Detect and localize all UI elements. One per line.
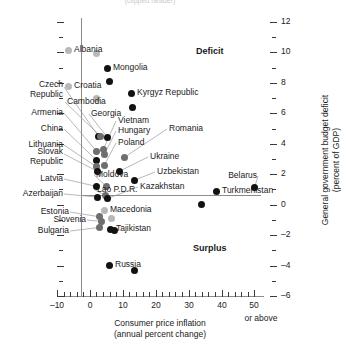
y-tick-major-right — [270, 22, 277, 23]
x-tick-minor — [143, 292, 144, 297]
x-tick-minor — [202, 292, 203, 297]
y-tick-major-right — [270, 266, 277, 267]
point-label: Slovenia — [26, 215, 86, 225]
x-axis-or-above-note: or above — [213, 313, 309, 323]
x-tick-minor — [248, 292, 249, 297]
y-tick-minor-right — [272, 220, 276, 221]
data-point — [65, 83, 72, 90]
x-tick-minor — [136, 292, 137, 297]
point-label: Belarus — [197, 171, 257, 181]
y-tick-major-left — [57, 22, 64, 23]
point-label: CzechRepublic — [3, 80, 63, 99]
data-point — [108, 215, 115, 222]
x-axis-title-line2: (annual percent change) — [45, 329, 275, 340]
y-tick-minor-right — [272, 129, 276, 130]
x-tick-major — [189, 290, 190, 297]
point-label: Uzbekistan — [157, 167, 199, 177]
data-point — [121, 154, 128, 161]
x-tick-minor — [110, 292, 111, 297]
y-axis-title-line1: General government budget deficit — [320, 95, 330, 225]
point-label: Turkmenistan — [222, 186, 273, 196]
point-label: Lao P.D.R. — [97, 185, 137, 195]
label-leader-line — [64, 154, 97, 171]
point-label: Kazakhstan — [140, 182, 184, 192]
x-tick-minor — [96, 292, 97, 297]
point-label: Georgia — [91, 109, 121, 119]
point-label: Albania — [74, 45, 102, 55]
label-leader-line — [64, 194, 97, 197]
x-tick-minor — [83, 292, 84, 297]
y-axis-title-line2: (percent of GDP) — [331, 128, 341, 192]
data-point — [94, 194, 101, 201]
y-tick-minor-left — [59, 68, 63, 69]
data-point — [104, 65, 111, 72]
point-label: China — [3, 124, 63, 134]
x-tick-minor — [235, 292, 236, 297]
x-tick-minor — [182, 292, 183, 297]
data-point — [131, 177, 138, 184]
data-point — [101, 207, 108, 214]
x-tick-major — [90, 290, 91, 297]
point-label: Armenia — [3, 108, 63, 118]
x-tick-major — [57, 290, 58, 297]
x-tick-minor — [241, 292, 242, 297]
point-label: Cambodia — [67, 97, 106, 107]
data-point — [106, 262, 113, 269]
y-tick-label: 2 — [281, 169, 286, 178]
y-tick-major-right — [270, 52, 277, 53]
y-axis-title-sub: (percent of GDP) — [331, 35, 341, 285]
chart-container: (clipped header) –6–4–2024681012–1001020… — [0, 0, 341, 354]
point-label: Tajikistan — [116, 224, 151, 234]
x-tick-minor — [149, 292, 150, 297]
x-tick-minor — [64, 292, 65, 297]
y-tick-major-right — [270, 174, 277, 175]
y-tick-label: –6 — [281, 291, 290, 300]
y-tick-minor-right — [272, 37, 276, 38]
data-point — [107, 226, 114, 233]
data-point — [96, 224, 103, 231]
point-label: Latvia — [3, 174, 63, 184]
label-leader-line — [64, 113, 97, 151]
y-tick-minor-right — [272, 68, 276, 69]
x-tick-minor — [208, 292, 209, 297]
x-tick-major — [222, 290, 223, 297]
point-label: Croatia — [74, 81, 101, 91]
x-tick-minor — [103, 292, 104, 297]
y-tick-major-right — [270, 235, 277, 236]
x-tick-label: 50 — [234, 301, 274, 310]
label-leader-line — [70, 228, 99, 232]
surplus-annotation: Surplus — [193, 243, 227, 253]
data-point — [101, 151, 108, 158]
data-point — [101, 162, 108, 169]
x-tick-minor — [129, 292, 130, 297]
y-tick-major-right — [270, 296, 277, 297]
point-label: Bulgaria — [9, 226, 69, 236]
y-tick-minor-right — [272, 98, 276, 99]
point-label: Azerbaijan — [3, 189, 63, 199]
x-tick-minor — [175, 292, 176, 297]
y-tick-minor-left — [59, 250, 63, 251]
point-label: Macedonia — [110, 205, 152, 215]
point-label: Romania — [169, 124, 203, 134]
y-tick-minor-left — [59, 37, 63, 38]
data-point — [104, 195, 111, 202]
y-tick-label: 8 — [281, 78, 286, 87]
x-tick-minor — [169, 292, 170, 297]
x-tick-minor — [162, 292, 163, 297]
y-tick-minor-right — [272, 250, 276, 251]
deficit-annotation: Deficit — [196, 46, 224, 56]
y-tick-label: –2 — [281, 230, 290, 239]
x-tick-major — [254, 290, 255, 297]
point-label: SlovakRepublic — [3, 147, 63, 166]
point-label: Hungary — [118, 126, 150, 136]
y-tick-major-right — [270, 205, 277, 206]
x-tick-minor — [215, 292, 216, 297]
point-label: Poland — [118, 138, 144, 148]
label-leader-line — [64, 179, 96, 186]
y-tick-major-left — [57, 296, 64, 297]
y-tick-label: 0 — [281, 200, 286, 209]
point-label: Kyrgyz Republic — [137, 88, 198, 98]
y-tick-major-right — [270, 83, 277, 84]
y-tick-major-right — [270, 144, 277, 145]
x-tick-major — [156, 290, 157, 297]
